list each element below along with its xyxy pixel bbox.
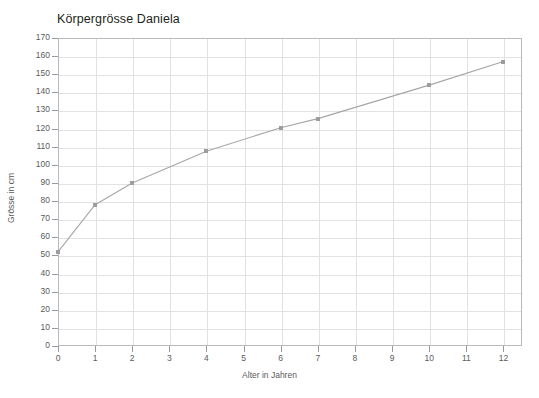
- x-axis-tick: [355, 346, 356, 352]
- y-axis-tick-label: 10: [24, 322, 50, 332]
- x-axis-tick: [169, 346, 170, 352]
- y-axis-tick: [52, 328, 58, 329]
- y-axis-tick: [52, 201, 58, 202]
- x-axis-title: Alter in Jahren: [0, 370, 539, 380]
- y-axis-tick-label: 130: [24, 104, 50, 114]
- y-axis-tick-label: 90: [24, 177, 50, 187]
- data-point-marker: [501, 60, 505, 64]
- y-axis-tick-label: 70: [24, 213, 50, 223]
- x-axis-tick-label: 1: [85, 353, 105, 363]
- y-axis-tick-label: 120: [24, 123, 50, 133]
- x-axis-tick: [206, 346, 207, 352]
- chart-title: Körpergrösse Daniela: [57, 12, 180, 26]
- y-axis-tick: [52, 92, 58, 93]
- x-axis-tick: [503, 346, 504, 352]
- y-axis-tick: [52, 237, 58, 238]
- y-axis-title: Grösse in cm: [6, 163, 16, 233]
- y-axis-tick: [52, 38, 58, 39]
- y-axis-tick-label: 30: [24, 286, 50, 296]
- x-axis-tick: [95, 346, 96, 352]
- x-axis-tick-label: 3: [159, 353, 179, 363]
- y-axis-tick: [52, 274, 58, 275]
- data-point-marker: [316, 117, 320, 121]
- y-axis-tick: [52, 147, 58, 148]
- x-axis-tick: [392, 346, 393, 352]
- data-point-marker: [93, 203, 97, 207]
- y-axis-tick: [52, 56, 58, 57]
- y-axis-tick-label: 20: [24, 304, 50, 314]
- y-axis-tick-label: 140: [24, 86, 50, 96]
- x-axis-tick-label: 7: [308, 353, 328, 363]
- x-axis-tick-label: 11: [456, 353, 476, 363]
- y-axis-tick-label: 80: [24, 195, 50, 205]
- y-axis-tick-label: 60: [24, 231, 50, 241]
- x-axis-tick-label: 5: [234, 353, 254, 363]
- data-point-marker: [427, 83, 431, 87]
- y-axis-tick: [52, 165, 58, 166]
- y-axis-tick: [52, 310, 58, 311]
- y-axis-tick: [52, 129, 58, 130]
- x-axis-tick: [429, 346, 430, 352]
- y-axis-tick: [52, 292, 58, 293]
- x-axis-tick-label: 8: [345, 353, 365, 363]
- data-point-marker: [130, 181, 134, 185]
- y-axis-tick: [52, 183, 58, 184]
- data-point-marker: [204, 149, 208, 153]
- data-series-line: [58, 38, 522, 346]
- y-axis-tick-label: 150: [24, 68, 50, 78]
- x-axis-tick: [244, 346, 245, 352]
- x-axis-tick-label: 9: [382, 353, 402, 363]
- x-axis-tick-label: 4: [196, 353, 216, 363]
- y-axis-tick-label: 100: [24, 159, 50, 169]
- y-axis-tick-label: 160: [24, 50, 50, 60]
- y-axis-tick: [52, 255, 58, 256]
- x-axis-tick: [318, 346, 319, 352]
- x-axis-tick: [132, 346, 133, 352]
- chart-container: Körpergrösse Daniela Grösse in cm Alter …: [0, 0, 539, 398]
- x-axis-tick-label: 10: [419, 353, 439, 363]
- x-axis-tick-label: 2: [122, 353, 142, 363]
- y-axis-tick-label: 40: [24, 268, 50, 278]
- y-axis-tick: [52, 110, 58, 111]
- data-point-marker: [279, 126, 283, 130]
- y-axis-tick: [52, 219, 58, 220]
- x-axis-tick-label: 6: [271, 353, 291, 363]
- data-point-marker: [56, 250, 60, 254]
- y-axis-tick: [52, 74, 58, 75]
- x-axis-tick: [281, 346, 282, 352]
- x-axis-tick: [58, 346, 59, 352]
- x-axis-tick-label: 12: [493, 353, 513, 363]
- y-axis-tick-label: 0: [24, 340, 50, 350]
- y-axis-tick-label: 110: [24, 141, 50, 151]
- x-axis-tick-label: 0: [48, 353, 68, 363]
- x-axis-tick: [466, 346, 467, 352]
- y-axis-tick-label: 50: [24, 249, 50, 259]
- y-axis-tick-label: 170: [24, 32, 50, 42]
